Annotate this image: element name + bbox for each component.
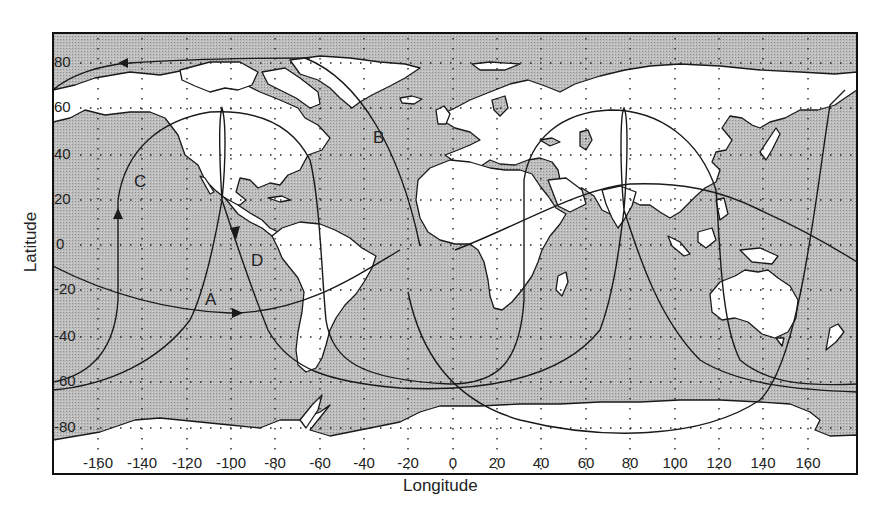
y-axis-title: Latitude (21, 197, 41, 287)
y-tick-neg80: -80 (54, 418, 84, 435)
x-tick: -120 (165, 454, 209, 471)
x-tick: -140 (120, 454, 164, 471)
track-label-a: A (205, 290, 216, 310)
y-tick-0: 0 (56, 235, 86, 252)
world-map (0, 0, 879, 514)
x-tick: 60 (564, 454, 608, 471)
x-tick: 40 (519, 454, 563, 471)
track-label-d: D (251, 251, 263, 271)
y-tick-80: 80 (54, 53, 84, 70)
x-tick: -40 (342, 454, 386, 471)
x-tick: 100 (653, 454, 697, 471)
x-tick: 80 (608, 454, 652, 471)
x-tick: 140 (741, 454, 785, 471)
x-tick: 160 (786, 454, 830, 471)
y-tick-neg20: -20 (54, 280, 84, 297)
y-tick-40: 40 (54, 145, 84, 162)
x-tick: 0 (431, 454, 475, 471)
x-tick: -60 (298, 454, 342, 471)
y-tick-60: 60 (54, 98, 84, 115)
x-tick: -100 (209, 454, 253, 471)
x-tick: -20 (386, 454, 430, 471)
y-tick-20: 20 (54, 190, 84, 207)
y-tick-neg40: -40 (54, 327, 84, 344)
track-label-c: C (134, 172, 146, 192)
x-tick: 120 (697, 454, 741, 471)
y-tick-neg60: -60 (54, 372, 84, 389)
x-tick: -160 (76, 454, 120, 471)
track-label-b: B (373, 128, 384, 148)
x-tick: -80 (253, 454, 297, 471)
x-axis-title: Longitude (403, 476, 478, 496)
x-tick: 20 (475, 454, 519, 471)
